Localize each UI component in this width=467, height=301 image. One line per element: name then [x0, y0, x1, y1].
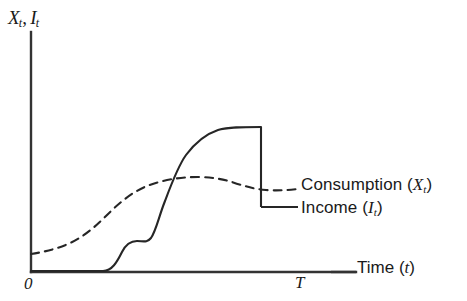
legend-item-consumption: Consumption (Xt) [301, 176, 432, 195]
x-axis-label-text: Time [357, 258, 394, 277]
y-axis-label: Xt,It [8, 8, 39, 29]
series-consumption-path [31, 177, 298, 254]
series-consumption [31, 177, 298, 254]
series-income [31, 127, 298, 271]
y-axis-income-subscript: t [36, 16, 40, 30]
x-axis-label: Time (t) [357, 259, 415, 276]
legend-consumption-variable: X [413, 175, 423, 194]
x-axis-close-paren: ) [409, 258, 415, 277]
x-axis-tick-T: T [295, 274, 304, 291]
legend-item-income: Income (It) [301, 199, 383, 218]
series-income-path [31, 127, 261, 271]
axis-origin-label: 0 [24, 275, 33, 292]
legend-consumption-name: Consumption [301, 175, 402, 194]
legend-income-close-paren: ) [377, 198, 383, 217]
chart-plot-area [0, 0, 467, 301]
chart-figure: Xt,It Time (t) 0 T Consumption (Xt) Inco… [0, 0, 467, 301]
y-axis-separator: , [22, 7, 27, 28]
legend-consumption-close-paren: ) [427, 175, 433, 194]
legend-income-name: Income [301, 198, 357, 217]
